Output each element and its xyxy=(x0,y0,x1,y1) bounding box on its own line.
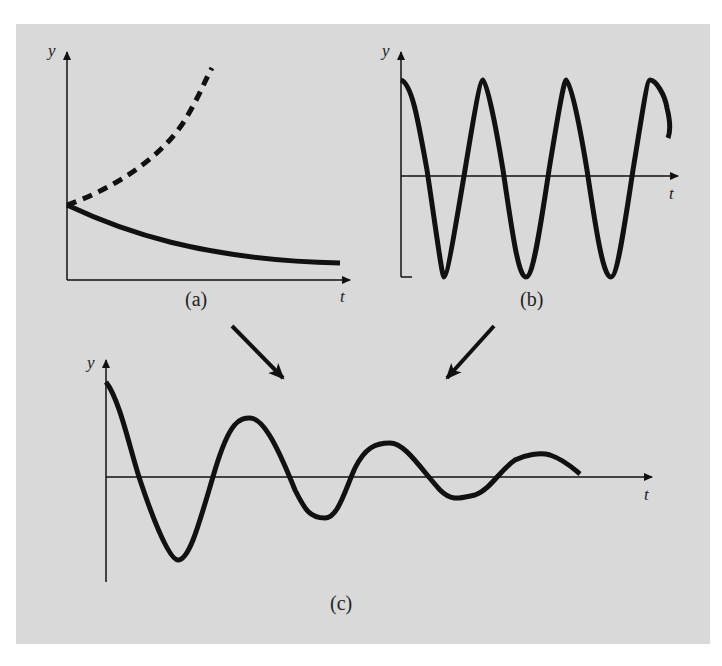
damped-oscillation-curve xyxy=(106,382,580,560)
t-label-c: t xyxy=(644,485,650,504)
y-label-b: y xyxy=(380,41,390,60)
y-label-a: y xyxy=(46,41,56,60)
caption-b: (b) xyxy=(520,288,543,311)
y-label-c: y xyxy=(85,353,95,372)
panel-a: y t (a) xyxy=(46,41,350,311)
growth-curve xyxy=(67,68,212,205)
oscillation-curve xyxy=(401,80,670,277)
t-label-b: t xyxy=(669,184,675,203)
figure-canvas: y t (a) y t (b) y t (c) xyxy=(0,0,722,666)
arrow-b-to-c xyxy=(447,326,494,378)
caption-c: (c) xyxy=(330,592,352,615)
t-label-a: t xyxy=(340,287,346,306)
arrow-a-to-c xyxy=(232,326,283,378)
panel-b: y t (b) xyxy=(380,41,690,311)
decay-curve xyxy=(67,205,340,263)
panel-c: y t (c) xyxy=(85,353,652,615)
caption-a: (a) xyxy=(185,288,207,311)
